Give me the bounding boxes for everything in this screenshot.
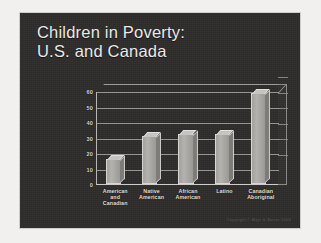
chart-bar-side-face bbox=[156, 132, 161, 183]
y-axis-label: 10 bbox=[86, 167, 93, 173]
y-axis-label: 30 bbox=[86, 136, 93, 142]
x-axis-category-label: CanadianAboriginal bbox=[239, 188, 283, 200]
chart-right-wall bbox=[278, 84, 287, 185]
x-axis-category-line: Canadian bbox=[93, 200, 137, 206]
x-axis-category-line: American bbox=[166, 194, 210, 200]
chart-bar bbox=[178, 134, 193, 184]
chart-bar-side-face bbox=[229, 131, 234, 183]
chart-plot-area: 0102030405060AmericanandCanadianNativeAm… bbox=[96, 92, 278, 185]
bar-chart: 0102030405060AmericanandCanadianNativeAm… bbox=[55, 66, 281, 211]
title-line-2: U.S. and Canada bbox=[37, 42, 277, 61]
chart-gridline-tick bbox=[278, 93, 288, 94]
chart-gridline-tick bbox=[278, 124, 288, 125]
chart-gridline-tick bbox=[278, 77, 288, 78]
chart-bar bbox=[215, 134, 230, 184]
chart-bar bbox=[142, 136, 157, 184]
chart-bar-side-face bbox=[120, 156, 125, 183]
y-axis-label: 40 bbox=[86, 120, 93, 126]
title-line-1: Children in Poverty: bbox=[37, 23, 277, 42]
y-axis-label: 50 bbox=[86, 105, 93, 111]
copyright-footer: Copyright © Allyn & Bacon 2004 bbox=[227, 217, 291, 222]
chart-gridline-tick bbox=[278, 139, 288, 140]
page-title: Children in Poverty: U.S. and Canada bbox=[37, 23, 277, 61]
chart-bar-side-face bbox=[265, 89, 270, 183]
chart-bar bbox=[251, 93, 266, 184]
x-axis-category-line: Aboriginal bbox=[239, 194, 283, 200]
chart-gridline-tick bbox=[278, 108, 288, 109]
chart-bar-side-face bbox=[193, 131, 198, 183]
chart-gridline-tick bbox=[278, 155, 288, 156]
presentation-slide: Children in Poverty: U.S. and Canada 010… bbox=[20, 13, 300, 228]
chart-bar bbox=[106, 159, 121, 184]
y-axis-label: 20 bbox=[86, 151, 93, 157]
y-axis-label: 60 bbox=[86, 89, 93, 95]
